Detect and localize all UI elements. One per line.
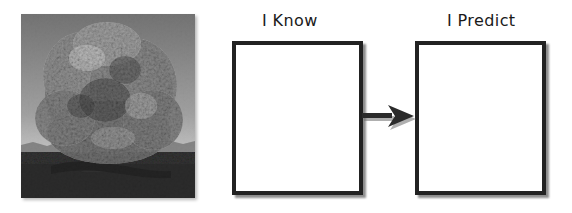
response-box-predict[interactable] [415,41,546,195]
column-label-know: I Know [262,13,318,29]
tree-photograph [21,14,195,198]
response-box-know[interactable] [232,41,363,195]
arrow-right-icon-graphic [362,100,418,138]
tree-photograph-graphic [21,14,195,198]
arrow-right-icon [362,100,418,138]
column-label-predict: I Predict [447,13,516,29]
